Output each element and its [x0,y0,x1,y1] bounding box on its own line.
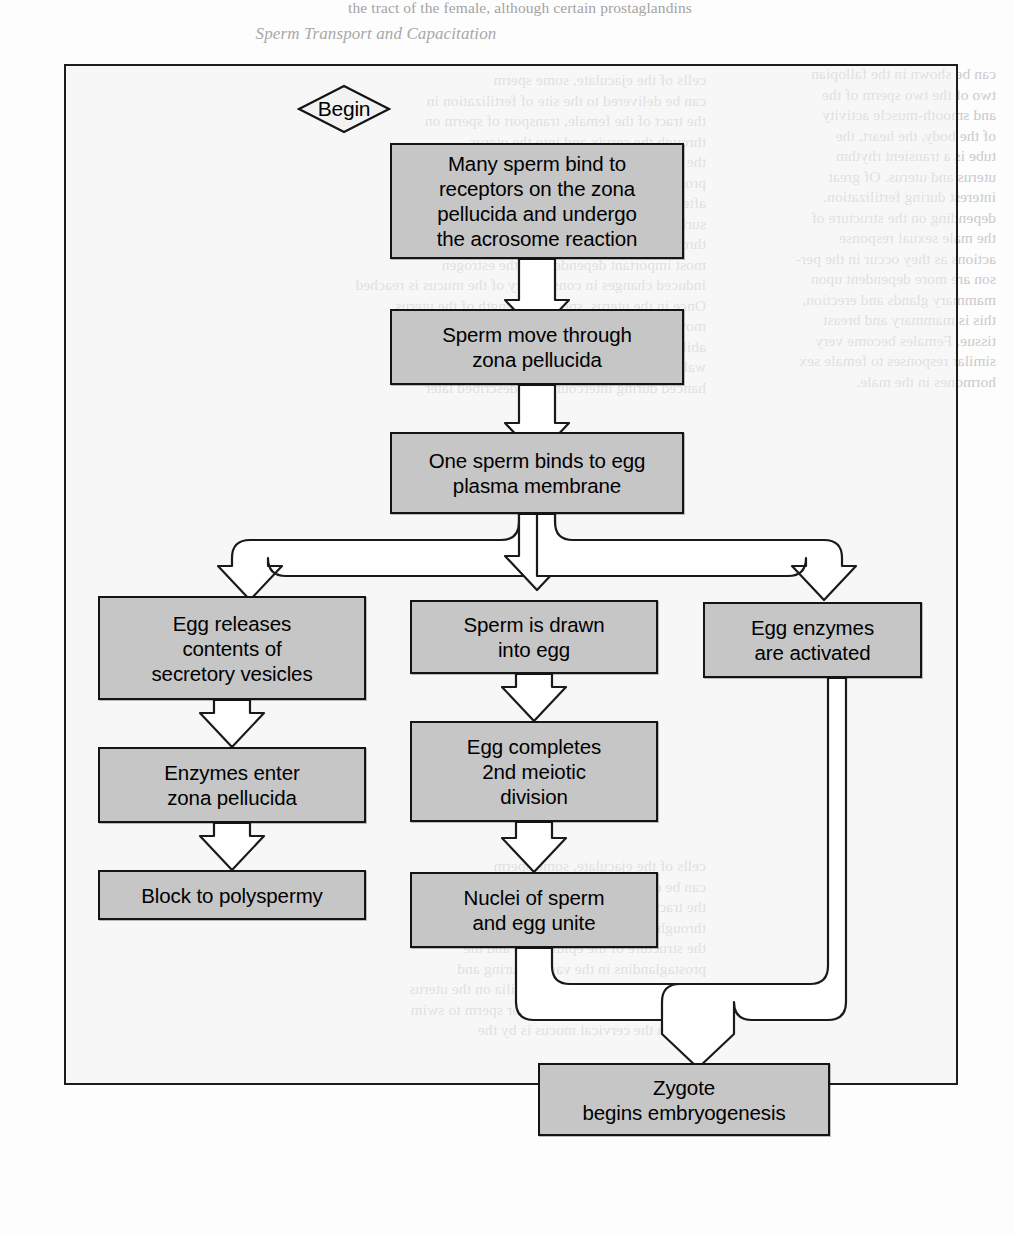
flow-node-egg-completes-meiosis: Egg completes 2nd meiotic division [410,721,658,822]
flow-node-bind-receptors: Many sperm bind to receptors on the zona… [390,143,684,259]
flow-node-block-to-polyspermy: Block to polyspermy [98,870,366,920]
flow-node-label: Many sperm bind to receptors on the zona… [431,151,644,251]
connector-vesicles-to-enzymes [200,700,264,747]
begin-terminator: Begin [297,84,391,134]
connector-drawn-to-meiosis [502,674,566,721]
flow-node-move-through-zona: Sperm move through zona pellucida [390,309,684,385]
flow-node-label: Egg enzymes are activated [745,615,880,665]
connector-enzymes-activated-to-zygote [662,678,846,1068]
flow-node-label: Block to polyspermy [135,883,329,908]
flow-node-enzymes-enter-zona: Enzymes enter zona pellucida [98,747,366,823]
flow-node-label: One sperm binds to egg plasma membrane [423,448,652,498]
flow-node-label: Sperm move through zona pellucida [436,322,638,372]
flow-node-label: Egg completes 2nd meiotic division [461,734,607,809]
flow-node-sperm-drawn-into-egg: Sperm is drawn into egg [410,600,658,674]
flow-node-label: Nuclei of sperm and egg unite [458,885,611,935]
connector-plasma-split-right [537,514,856,600]
flow-node-egg-releases-vesicles: Egg releases contents of secretory vesic… [98,596,366,700]
connector-meiosis-to-nuclei [502,822,566,872]
begin-label: Begin [297,84,391,134]
connector-plasma-split-left [218,514,537,600]
flow-node-egg-enzymes-activated: Egg enzymes are activated [703,602,922,678]
flow-node-zygote-embryogenesis: Zygote begins embryogenesis [538,1063,830,1136]
flow-node-label: Zygote begins embryogenesis [576,1075,791,1125]
connector-enzymes-to-block [200,823,264,870]
figure-page: the tract of the female, although certai… [0,0,1014,1236]
flow-node-nuclei-unite: Nuclei of sperm and egg unite [410,872,658,948]
flow-node-bind-plasma-membrane: One sperm binds to egg plasma membrane [390,432,684,514]
flow-node-label: Sperm is drawn into egg [457,612,610,662]
flow-node-label: Egg releases contents of secretory vesic… [145,611,318,686]
flow-node-label: Enzymes enter zona pellucida [158,760,305,810]
